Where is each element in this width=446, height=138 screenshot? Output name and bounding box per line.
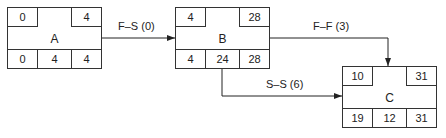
late-finish: 31 (407, 108, 436, 127)
link-label-ff: F–F (3) (313, 20, 349, 32)
late-finish: 28 (240, 49, 269, 68)
early-finish: 28 (239, 8, 269, 27)
link-label-fs: F–S (0) (118, 20, 155, 32)
link-label-ss: S–S (6) (266, 78, 303, 90)
early-finish: 4 (71, 8, 101, 27)
early-start: 0 (8, 8, 38, 27)
activity-name: A (8, 27, 101, 50)
early-finish: 31 (406, 67, 436, 86)
activity-node-c: 10 31 C 19 12 31 (342, 66, 437, 128)
activity-name: B (176, 27, 269, 50)
activity-node-b: 4 28 B 4 24 28 (175, 7, 270, 69)
early-start: 10 (343, 67, 373, 86)
early-start: 4 (176, 8, 206, 27)
duration: 12 (373, 108, 407, 127)
activity-name: C (343, 86, 436, 109)
late-start: 19 (343, 108, 373, 127)
link-b-c-ff (270, 38, 388, 66)
late-finish: 4 (72, 49, 101, 68)
duration: 24 (206, 49, 240, 68)
late-start: 4 (176, 49, 206, 68)
duration: 4 (38, 49, 72, 68)
late-start: 0 (8, 49, 38, 68)
activity-node-a: 0 4 A 0 4 4 (7, 7, 102, 69)
